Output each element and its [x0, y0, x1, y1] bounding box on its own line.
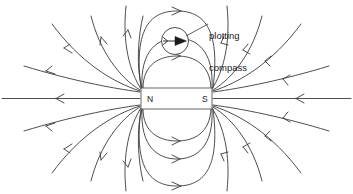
arrowheads-upper-left: [46, 30, 131, 74]
axis-line-right-group: [213, 94, 351, 103]
field-loop-below-1: [143, 109, 211, 141]
bar-magnet: N S: [141, 88, 212, 109]
fan-lines-lower-right: [212, 105, 329, 191]
arrowhead-lr-3: [243, 143, 250, 153]
arrowhead-ll-2: [64, 144, 72, 153]
arrowhead-lr-1: [283, 112, 290, 122]
arrowhead-ul-2: [64, 44, 72, 53]
field-line-lr-3: [213, 107, 262, 181]
fan-lines-upper-left: [24, 6, 143, 92]
callout-leader-line: [186, 24, 208, 36]
callout-line-1: plotting: [209, 31, 247, 42]
arrowhead-ur-1: [283, 75, 290, 85]
field-line-ul-1: [24, 66, 140, 92]
callout-label-plotting-compass: plotting compass: [209, 10, 247, 94]
field-line-ul-2: [52, 24, 140, 91]
south-pole-label: S: [202, 94, 208, 104]
arrowheads-lower-right: [221, 112, 290, 161]
field-line-ll-3: [91, 107, 140, 181]
arrowheads-loops-below: [172, 137, 181, 190]
field-loop-above-1: [143, 56, 211, 88]
arrowhead-ll-4: [123, 159, 131, 167]
magnetic-field-diagram: N S plotting compass: [0, 0, 353, 194]
north-pole-label: N: [147, 94, 153, 104]
field-line-ul-3: [91, 16, 140, 90]
field-line-lr-2: [213, 106, 301, 173]
field-line-lr-1: [213, 105, 329, 131]
field-line-ll-2: [52, 106, 140, 173]
field-lines-canvas: N S: [0, 0, 353, 194]
field-loops-below: [139, 109, 215, 186]
arrowheads-lower-left: [46, 123, 131, 167]
callout-line-2: compass: [209, 63, 247, 74]
fan-lines-lower-left: [24, 105, 143, 191]
field-loop-below-2: [142, 109, 212, 159]
axis-line-left-group: [2, 94, 140, 103]
plotting-compass[interactable]: [162, 28, 189, 55]
arrowhead-ul-4: [123, 30, 131, 38]
field-line-ll-1: [24, 105, 140, 131]
